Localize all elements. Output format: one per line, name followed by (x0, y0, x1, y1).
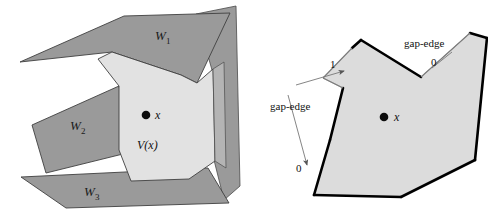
label-value-lower-left: 0 (296, 162, 302, 174)
site-point-x (142, 111, 151, 120)
label-value-top: 0 (431, 56, 437, 68)
label-w3-subscript: 3 (95, 192, 100, 202)
label-value-upper-left: 1 (330, 58, 336, 70)
region-w3 (21, 168, 229, 208)
label-vx: V(x) (137, 138, 158, 152)
label-x-right: x (393, 110, 400, 124)
left-diagram: W 1 W 2 W 3 x V(x) (20, 6, 240, 208)
left-sliver (213, 62, 226, 168)
label-w1-subscript: 1 (166, 36, 171, 46)
site-point-x-right (380, 113, 389, 122)
right-diagram: gap-edge 0 gap-edge 1 0 x (270, 33, 487, 197)
diagram-canvas: W 1 W 2 W 3 x V(x) (0, 0, 488, 213)
label-gap-edge-left: gap-edge (270, 100, 310, 112)
label-w2-subscript: 2 (81, 126, 86, 136)
gap-edge-cell (314, 33, 487, 197)
label-x-left: x (154, 108, 161, 122)
label-gap-edge-top: gap-edge (404, 37, 444, 49)
figure-root: W 1 W 2 W 3 x V(x) (0, 0, 488, 213)
